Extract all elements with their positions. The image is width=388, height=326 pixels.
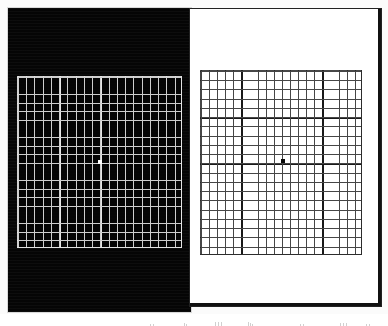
scan-artifact-mark [221, 322, 222, 326]
scan-artifact-mark [215, 322, 216, 326]
fixation-dot-white [98, 160, 102, 164]
scan-artifact-mark [218, 322, 219, 326]
fixation-dot-black [281, 159, 285, 163]
scan-artifact-mark [248, 322, 249, 326]
scan-artifact-band [0, 314, 388, 326]
figure-canvas: Amsler grid test charts Two Amsler grid … [0, 0, 388, 326]
